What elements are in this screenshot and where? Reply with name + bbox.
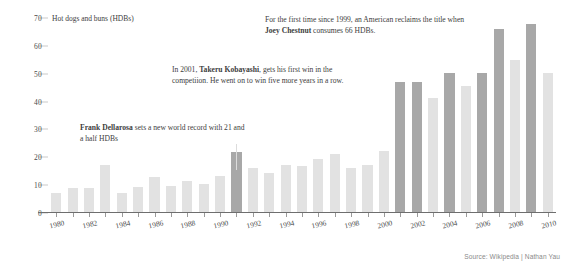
bar-1982 xyxy=(84,188,94,212)
x-axis-tick xyxy=(56,213,57,217)
x-axis-label-1990: 1990 xyxy=(213,218,230,230)
bar-1984 xyxy=(117,193,127,212)
x-axis-tick xyxy=(400,213,401,217)
x-axis-tick xyxy=(253,213,254,217)
bar-2003 xyxy=(428,98,438,212)
x-axis-label-2004: 2004 xyxy=(442,218,459,230)
y-axis-label: 20 xyxy=(34,153,42,162)
annotation-kobayashi: In 2001, Takeru Kobayashi, gets his firs… xyxy=(172,64,357,86)
source-credit: Source: Wikipedia | Nathan Yau xyxy=(464,253,560,260)
x-axis-tick xyxy=(368,213,369,217)
bar-1992 xyxy=(248,168,258,212)
plot-area: 010203040506070Hot dogs and buns (HDBs) xyxy=(48,18,556,213)
x-axis-tick xyxy=(73,213,74,217)
x-axis-tick xyxy=(302,213,303,217)
bar-series xyxy=(48,18,556,212)
y-axis-label: 10 xyxy=(34,181,42,190)
hot-dog-contest-chart: 010203040506070Hot dogs and buns (HDBs) … xyxy=(0,0,572,268)
bar-1980 xyxy=(51,193,61,212)
x-axis-tick xyxy=(335,213,336,217)
annotation-chestnut-lead: For the first time since 1999, an Americ… xyxy=(265,15,464,24)
x-axis-tick xyxy=(531,213,532,217)
x-axis-tick xyxy=(482,213,483,217)
y-axis-label: 0 xyxy=(38,209,42,218)
x-axis-tick xyxy=(433,213,434,217)
x-axis-tick xyxy=(449,213,450,217)
x-axis-label-1988: 1988 xyxy=(180,218,197,230)
x-axis-tick xyxy=(466,213,467,217)
x-axis-tick xyxy=(236,213,237,217)
bar-2010 xyxy=(543,73,553,212)
bar-1981 xyxy=(68,188,78,212)
annotation-kobayashi-lead: In 2001, xyxy=(172,65,199,74)
x-axis-label-1984: 1984 xyxy=(114,218,131,230)
y-axis-label: 30 xyxy=(34,125,42,134)
bar-1983 xyxy=(100,165,110,212)
bar-1999 xyxy=(362,165,372,212)
y-axis-label: 60 xyxy=(34,41,42,50)
annotation-dellarosa: Frank Dellarosa sets a new world record … xyxy=(80,122,245,144)
x-axis-tick xyxy=(187,213,188,217)
bar-1995 xyxy=(297,166,307,212)
x-axis-tick xyxy=(417,213,418,217)
bar-1993 xyxy=(264,173,274,212)
bar-1997 xyxy=(330,154,340,212)
bar-2004 xyxy=(444,73,454,212)
x-axis-tick xyxy=(286,213,287,217)
x-axis-tick xyxy=(318,213,319,217)
bar-2006 xyxy=(477,73,487,212)
bar-2001 xyxy=(395,82,405,212)
x-axis-label-1998: 1998 xyxy=(344,218,361,230)
bar-1994 xyxy=(281,165,291,212)
bar-1988 xyxy=(182,181,192,212)
x-axis-tick xyxy=(204,213,205,217)
x-axis-tick xyxy=(499,213,500,217)
x-axis-label-1986: 1986 xyxy=(147,218,164,230)
bar-1998 xyxy=(346,168,356,212)
bar-1989 xyxy=(199,184,209,212)
x-axis-tick xyxy=(515,213,516,217)
x-axis-label-1994: 1994 xyxy=(278,218,295,230)
bar-1986 xyxy=(149,177,159,212)
bar-1996 xyxy=(313,159,323,212)
y-axis-label: 70 xyxy=(34,14,42,23)
bar-1987 xyxy=(166,186,176,212)
bar-2002 xyxy=(412,82,422,212)
x-axis-tick xyxy=(351,213,352,217)
x-axis-tick xyxy=(105,213,106,217)
bar-2007 xyxy=(494,29,504,212)
x-axis: 1980198219841986198819901992199419961998… xyxy=(48,213,556,253)
bar-2000 xyxy=(379,151,389,212)
annotation-chestnut: For the first time since 1999, an Americ… xyxy=(265,14,465,36)
x-axis-tick xyxy=(138,213,139,217)
x-axis-label-2006: 2006 xyxy=(475,218,492,230)
bar-2009 xyxy=(526,24,536,212)
x-axis-label-1982: 1982 xyxy=(82,218,99,230)
x-axis-label-1980: 1980 xyxy=(49,218,66,230)
annotation-kobayashi-name: Takeru Kobayashi xyxy=(199,65,259,74)
annotation-leader-line xyxy=(236,144,237,170)
bar-2005 xyxy=(461,86,471,212)
x-axis-label-2000: 2000 xyxy=(377,218,394,230)
x-axis-tick xyxy=(122,213,123,217)
x-axis-tick xyxy=(269,213,270,217)
x-axis-label-2008: 2008 xyxy=(508,218,525,230)
annotation-chestnut-name: Joey Chestnut xyxy=(265,26,311,35)
annotation-chestnut-text: consumes 66 HDBs. xyxy=(311,26,375,35)
x-axis-tick xyxy=(171,213,172,217)
annotation-dellarosa-name: Frank Dellarosa xyxy=(80,123,133,132)
y-axis-label: 50 xyxy=(34,69,42,78)
x-axis-label-1996: 1996 xyxy=(311,218,328,230)
bar-1990 xyxy=(215,176,225,212)
x-axis-tick xyxy=(384,213,385,217)
x-axis-label-2002: 2002 xyxy=(409,218,426,230)
bar-2008 xyxy=(510,60,520,212)
y-axis-label: 40 xyxy=(34,97,42,106)
x-axis-label-2010: 2010 xyxy=(540,218,557,230)
x-axis-tick xyxy=(89,213,90,217)
x-axis-tick xyxy=(155,213,156,217)
x-axis-label-1992: 1992 xyxy=(245,218,262,230)
x-axis-tick xyxy=(548,213,549,217)
bar-1985 xyxy=(133,187,143,212)
x-axis-tick xyxy=(220,213,221,217)
